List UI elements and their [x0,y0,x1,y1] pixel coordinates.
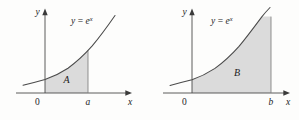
exponential-area-figure: y=ex y x 0 a A [0,0,299,120]
equation-exponent: x [229,15,233,22]
origin-tick-label: 0 [182,97,187,107]
y-axis-label: y [182,7,188,17]
x-axis-label: x [285,97,291,107]
region-label-B: B [234,67,240,78]
equation-operator: = [78,16,83,26]
origin-tick-label: 0 [35,97,40,107]
y-axis-arrow-icon [42,9,47,16]
region-label-A: A [63,74,71,85]
y-axis-arrow-icon [189,9,194,16]
figure-panel-right: y=ex y x 0 b B [149,0,299,120]
equation-lhs: y [210,16,216,26]
y-axis-label: y [35,7,41,17]
equation-label: y=ex [70,15,93,26]
x-axis-label: x [127,97,133,107]
figure-panel-left: y=ex y x 0 a A [0,0,150,120]
equation-exponent: x [89,15,93,22]
x-axis-arrow-icon [283,90,290,95]
x-axis-arrow-icon [125,90,132,95]
equation-lhs: y [70,16,76,26]
equation-operator: = [218,16,223,26]
equation-label: y=ex [210,15,233,26]
upper-bound-tick-label-a: a [86,97,91,107]
upper-bound-tick-label-b: b [269,97,274,107]
